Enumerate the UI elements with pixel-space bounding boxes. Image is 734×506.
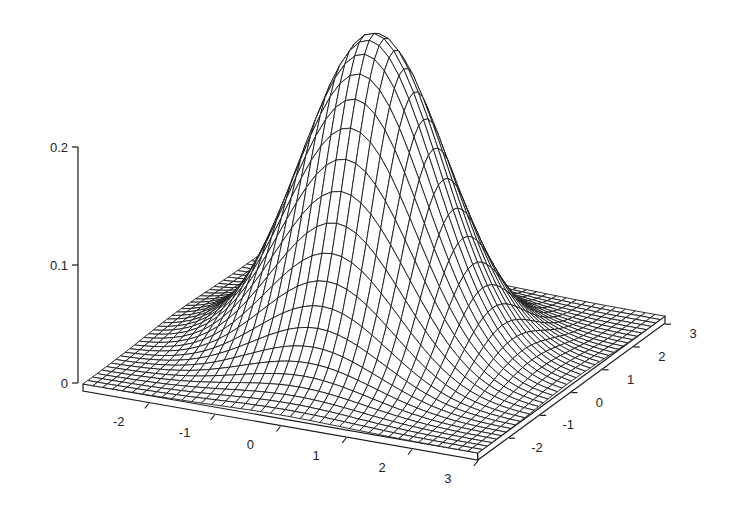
x-tick: [408, 450, 412, 455]
x-tick-label: -2: [113, 414, 125, 429]
y-tick-label: -2: [531, 440, 543, 455]
y-tick-label: 1: [627, 372, 634, 387]
wireframe-surface: [83, 33, 665, 453]
y-tick-label: -1: [562, 417, 574, 432]
y-tick-label: 0: [596, 395, 603, 410]
x-tick-label: 0: [247, 437, 254, 452]
z-tick-label: 0.2: [50, 140, 68, 155]
x-tick-label: -1: [179, 425, 191, 440]
x-tick: [145, 404, 149, 409]
z-axis: 00.10.2: [50, 140, 78, 391]
z-tick-label: 0: [61, 376, 68, 391]
x-tick-label: 1: [313, 448, 320, 463]
y-tick-label: 2: [658, 349, 665, 364]
x-tick: [211, 415, 215, 420]
x-tick: [474, 461, 478, 466]
x-tick-label: 3: [444, 471, 451, 486]
x-tick: [342, 438, 346, 443]
y-tick-label: 3: [689, 326, 696, 341]
x-tick-label: 2: [378, 460, 385, 475]
x-tick: [276, 427, 280, 432]
z-tick-label: 0.1: [50, 258, 68, 273]
surface-plot: 00.10.2 -2-10123 -2-10123: [0, 0, 734, 506]
